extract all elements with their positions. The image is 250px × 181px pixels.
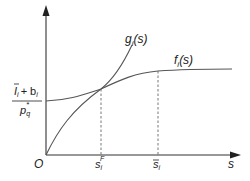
label-f: fi(s) (174, 53, 193, 69)
y-intercept-label: Ii+ bi pq * (12, 84, 42, 118)
svg-text:Ii+ bi: Ii+ bi (14, 85, 38, 98)
y-axis-arrow-icon (43, 5, 50, 16)
diagram: gi(s) fi(s) Ii+ bi pq * O siF si (0, 0, 250, 181)
label-g: gi(s) (125, 32, 147, 48)
diagram-canvas: gi(s) fi(s) Ii+ bi pq * O siF si (0, 0, 250, 181)
curve-f (46, 69, 232, 101)
x-axis-label: s (228, 157, 234, 171)
tick-sF: siF (95, 155, 105, 171)
tick-sbar: si (153, 158, 161, 171)
origin-label: O (34, 157, 43, 171)
